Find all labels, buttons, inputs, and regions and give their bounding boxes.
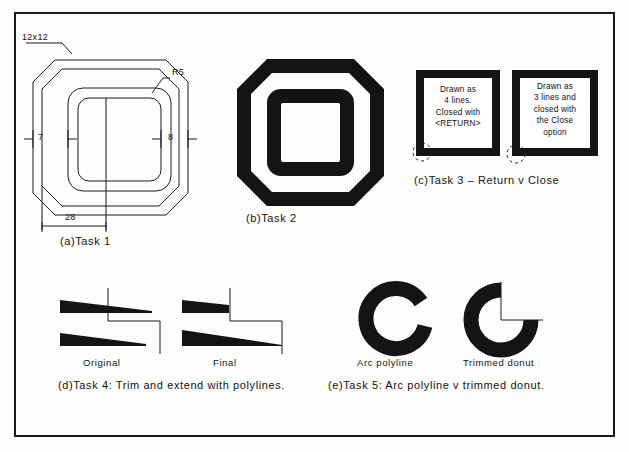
task4-final-bottom-wedge-extended [182, 330, 282, 346]
task1-radius-leader-2 [152, 78, 163, 93]
task1-inner-rounded-rect [78, 98, 161, 181]
task2-drawing [234, 56, 389, 211]
task4-orig-top-wedge [60, 300, 152, 313]
task5-donut-trim-lines [501, 282, 543, 320]
task4-final-top-wedge-trimmed [182, 300, 229, 313]
task4-caption: (d)Task 4: Trim and extend with polyline… [58, 379, 285, 391]
task3-right-line1: Drawn as [521, 81, 589, 92]
task3-right-line4: the Close [521, 115, 589, 126]
task1-dim-right-offset: 8 [168, 132, 173, 142]
task3-left-line1: Drawn as [425, 84, 491, 95]
figure-task3-left: Drawn as 4 lines. Closed with <RETURN> [416, 70, 506, 162]
task3-right-line3: closed with [521, 104, 589, 115]
task4-final-drawing [182, 288, 302, 354]
task1-dim-radius: R5 [172, 67, 184, 77]
task5-label-arc: Arc polyline [357, 357, 413, 368]
figure-task3-right: Drawn as 3 lines and closed with the Clo… [512, 70, 604, 162]
drawing-sheet: 12x12 R5 7 8 28 (a)Task 1 (b)Task 2 Draw… [0, 0, 629, 452]
task4-orig-step-polyline [108, 321, 160, 354]
figure-task5-donut [463, 282, 573, 358]
task1-dim-left-offset: 7 [38, 132, 43, 142]
task1-drawing [24, 36, 209, 236]
figure-task4-original [60, 288, 180, 354]
figure-task2 [234, 56, 389, 211]
task2-octagon-ring [237, 59, 384, 206]
task3-right-line2: 3 lines and [521, 92, 589, 103]
task5-trimmed-donut-drawing [463, 282, 573, 358]
task3-left-text: Drawn as 4 lines. Closed with <RETURN> [425, 84, 491, 130]
task3-caption: (c)Task 3 – Return v Close [414, 174, 559, 186]
task3-left-line3: Closed with [425, 107, 491, 118]
task4-label-original: Original [83, 357, 121, 368]
task1-chamfer-leader [26, 43, 72, 54]
figure-task5-arc [355, 282, 435, 358]
task5-label-donut: Trimmed donut [463, 357, 534, 368]
task5-caption: (e)Task 5: Arc polyline v trimmed donut. [328, 379, 545, 391]
task1-dim-chamfer: 12x12 [22, 32, 48, 42]
figure-task1: 12x12 R5 7 8 28 [24, 36, 209, 236]
task3-left-line4: <RETURN> [425, 118, 491, 129]
task3-right-text: Drawn as 3 lines and closed with the Clo… [521, 81, 589, 138]
task5-arc-polyline-drawing [355, 282, 435, 358]
task4-original-drawing [60, 288, 180, 354]
task4-orig-bottom-wedge [60, 333, 146, 346]
task1-caption: (a)Task 1 [60, 235, 111, 247]
task2-caption: (b)Task 2 [246, 212, 297, 224]
task1-dim-width: 28 [65, 212, 76, 222]
task1-inner-octagon [42, 69, 179, 206]
figure-task4-final [182, 288, 302, 354]
task4-label-final: Final [213, 357, 237, 368]
task3-left-line2: 4 lines. [425, 95, 491, 106]
task4-final-step-polyline [230, 321, 282, 354]
task1-outer-octagon [33, 60, 188, 215]
task3-right-line5: option [521, 127, 589, 138]
task5-arc-polyline [366, 289, 425, 349]
task2-rounded-square-ring [267, 89, 354, 176]
